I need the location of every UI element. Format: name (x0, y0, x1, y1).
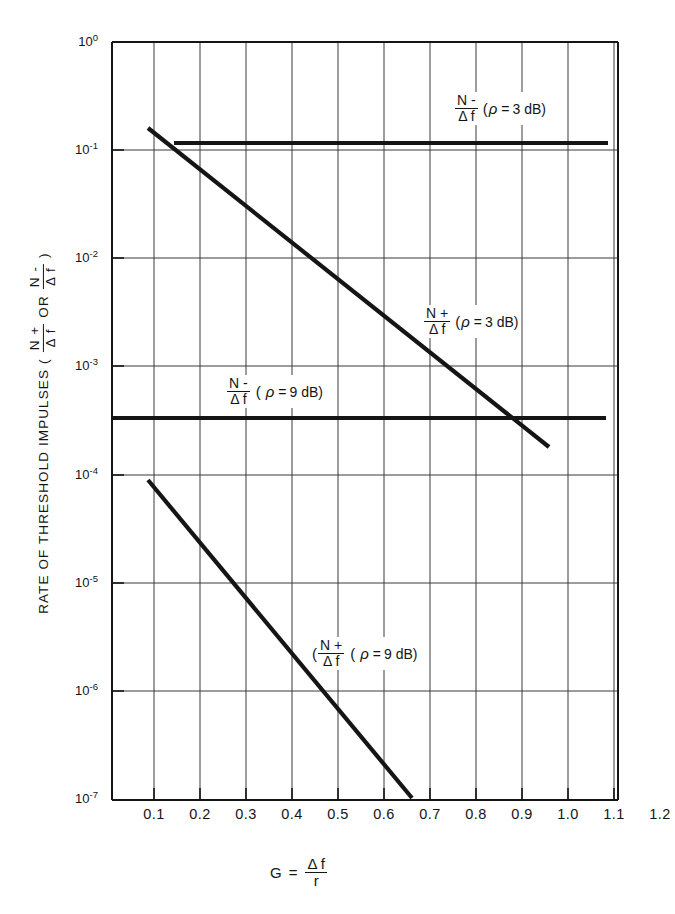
annotation-denominator: Δ f (427, 322, 447, 337)
x-axis-title: G = Δ f r (270, 856, 328, 889)
x-axis-denominator: r (312, 873, 321, 889)
annotation-n-plus-3db: N + Δ f ( ρ = 3 dB) (421, 305, 520, 338)
annotation-open-paren: ( (256, 383, 261, 400)
annotation-equals: = (278, 384, 286, 400)
annotation-equals: = (474, 314, 482, 330)
y-tick-label: 10-3 (52, 358, 98, 373)
annotation-n-minus-3db: N - Δ f ( ρ = 3 dB) (452, 92, 548, 125)
y-tick-label: 10-2 (52, 250, 98, 265)
x-tick-label: 1.2 (637, 806, 675, 822)
rho-symbol: ρ (359, 645, 370, 662)
y-axis-open-paren: ( (36, 358, 51, 364)
plot-frame (112, 42, 618, 800)
annotation-n-minus-9db: N - Δ f ( ρ = 9 dB) (224, 375, 325, 408)
x-tick-label: 0.2 (177, 806, 223, 822)
annotation-denominator: Δ f (456, 109, 476, 124)
rho-symbol: ρ (488, 100, 499, 117)
x-axis-numerator: Δ f (305, 856, 327, 873)
x-tick-label: 0.8 (453, 806, 499, 822)
rho-symbol: ρ (460, 313, 471, 330)
y-tick-label: 10-1 (52, 142, 98, 157)
annotation-value: 3 dB) (512, 101, 545, 117)
x-tick-label: 0.7 (407, 806, 453, 822)
y-tick-label: 100 (52, 34, 98, 49)
x-tick-label: 0.4 (269, 806, 315, 822)
y-tick-marks (112, 150, 124, 691)
annotation-equals: = (501, 101, 509, 117)
y-tick-label: 10-6 (52, 683, 98, 698)
x-tick-label: 0.3 (223, 806, 269, 822)
x-axis-fraction: Δ f r (305, 856, 327, 889)
annotation-fraction: N - Δ f (455, 93, 478, 124)
y-axis-n-minus-numerator: N - (28, 264, 44, 289)
x-tick-marks (154, 788, 614, 800)
y-axis-or: OR (36, 295, 51, 317)
y-axis-fraction-n-plus: N + Δ f (28, 324, 58, 353)
y-axis-title: RATE OF THRESHOLD IMPULSES ( N + Δ f OR … (28, 223, 58, 643)
x-tick-label: 0.6 (361, 806, 407, 822)
x-tick-label: 0.9 (499, 806, 545, 822)
x-tick-label: 1.1 (591, 806, 637, 822)
x-axis-equals: = (289, 864, 298, 881)
series-n-plus-3db (148, 128, 549, 447)
y-tick-label: 10-5 (52, 575, 98, 590)
annotation-numerator: N - (227, 376, 250, 392)
annotation-n-plus-9db: ( N + Δ f ( ρ = 9 dB) (310, 637, 419, 670)
rho-symbol: ρ (265, 383, 276, 400)
annotation-fraction: N - Δ f (227, 376, 250, 407)
annotation-fraction: N + Δ f (318, 638, 344, 669)
x-tick-label: 1.0 (545, 806, 591, 822)
y-axis-prefix: RATE OF THRESHOLD IMPULSES (36, 369, 51, 614)
annotation-equals: = (373, 646, 381, 662)
annotation-numerator: N + (318, 638, 344, 654)
y-tick-label: 10-7 (52, 791, 98, 806)
y-axis-fraction-n-minus: N - Δ f (28, 264, 58, 289)
x-axis-lhs: G (270, 864, 282, 881)
y-tick-label: 10-4 (52, 467, 98, 482)
x-tick-label: 0.1 (131, 806, 177, 822)
annotation-numerator: N + (424, 306, 450, 322)
y-axis-n-plus-denominator: Δ f (44, 326, 59, 349)
x-tick-label: 0.5 (315, 806, 361, 822)
annotation-value: 3 dB) (485, 314, 518, 330)
annotation-value: 9 dB) (289, 384, 322, 400)
annotation-leading-paren: ( (312, 645, 317, 662)
annotation-value: 9 dB) (384, 646, 417, 662)
y-axis-close-paren: ) (36, 252, 51, 258)
grid-lines (112, 42, 618, 800)
annotation-numerator: N - (455, 93, 478, 109)
y-axis-n-minus-denominator: Δ f (44, 265, 59, 288)
y-axis-n-plus-numerator: N + (28, 324, 44, 353)
annotation-denominator: Δ f (228, 392, 248, 407)
annotation-fraction: N + Δ f (424, 306, 450, 337)
annotation-denominator: Δ f (321, 654, 341, 669)
annotation-open-paren: ( (350, 645, 355, 662)
